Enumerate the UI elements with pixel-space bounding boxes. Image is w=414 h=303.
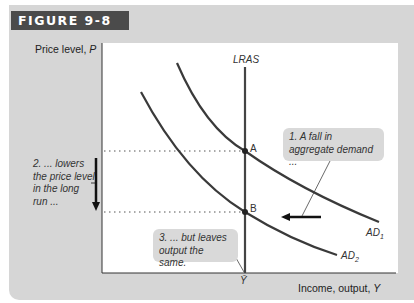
x-tick-ybar: Ȳ bbox=[240, 275, 247, 286]
point-b-label: B bbox=[250, 203, 257, 214]
ad2-label: AD2 bbox=[341, 250, 359, 263]
annotation-output-same: 3. ... but leaves output the same. bbox=[153, 229, 238, 262]
point-a-marker bbox=[242, 148, 248, 154]
point-b-marker bbox=[242, 209, 248, 215]
ad1-label: AD1 bbox=[366, 227, 384, 240]
callout3-leader bbox=[236, 258, 244, 272]
lras-label: LRAS bbox=[233, 54, 259, 65]
point-a-label: A bbox=[250, 143, 257, 154]
left-arrow-icon bbox=[281, 213, 290, 221]
annotation-fall-in-demand: 1. A fall in aggregate demand ... bbox=[283, 128, 384, 161]
annotation-lowers-price: 2. ... lowers the price level in the lon… bbox=[33, 158, 95, 208]
